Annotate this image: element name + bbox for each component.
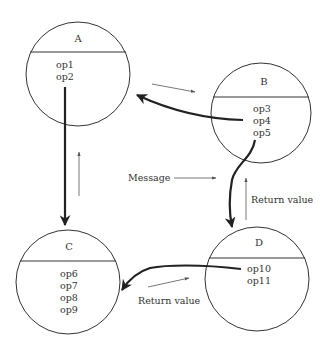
op-label: op5: [253, 127, 271, 138]
object-d[interactable]: D op10 op11: [205, 227, 309, 331]
call-arrow-b-to-d: [230, 140, 255, 227]
op-label: op6: [60, 268, 78, 279]
op-label: op11: [247, 275, 271, 286]
object-a-title: A: [73, 33, 82, 44]
object-diagram: A op1 op2 B op3 op4 op5 C op6 op7 op8 op…: [0, 0, 327, 354]
op-label: op4: [253, 115, 271, 126]
object-c-title: C: [65, 241, 73, 252]
return-arrow-a-to-b: [152, 84, 195, 92]
op-label: op9: [60, 304, 78, 315]
return-value-label-right: Return value: [251, 194, 314, 205]
op-label: op1: [56, 59, 74, 70]
object-b[interactable]: B op3 op4 op5: [211, 63, 311, 163]
call-arrow-d-to-c: [122, 266, 241, 291]
return-arrow-c-to-d: [148, 278, 189, 287]
op-label: op2: [56, 71, 74, 82]
call-arrow-b-to-a: [137, 95, 243, 120]
op-label: op8: [60, 292, 78, 303]
op-label: op10: [247, 263, 271, 274]
object-b-title: B: [260, 76, 267, 87]
object-a[interactable]: A op1 op2: [26, 22, 130, 126]
op-label: op3: [253, 103, 271, 114]
op-label: op7: [60, 280, 78, 291]
object-d-title: D: [255, 237, 263, 248]
message-label: Message: [128, 172, 171, 183]
return-value-label-bottom: Return value: [138, 295, 201, 306]
object-c[interactable]: C op6 op7 op8 op9: [16, 230, 120, 334]
